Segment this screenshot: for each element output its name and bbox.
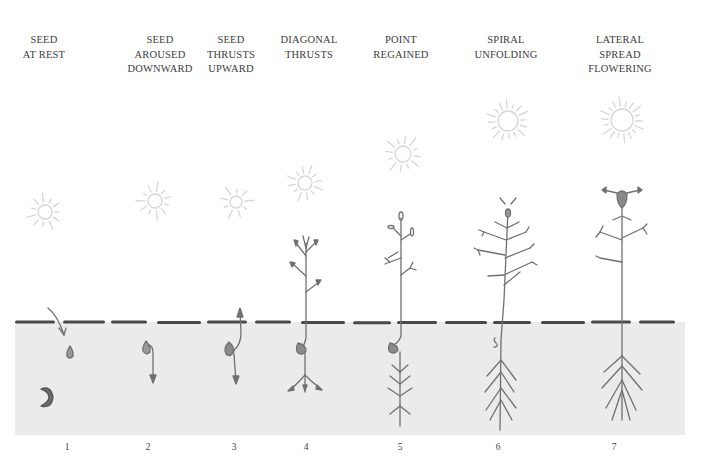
soil-area xyxy=(15,322,685,435)
stage-number-5: 5 xyxy=(390,442,410,452)
sun-icons xyxy=(27,97,643,229)
stage-number-7: 7 xyxy=(604,442,624,452)
sun-icon xyxy=(386,137,421,172)
sun-icon xyxy=(487,99,528,139)
stage-number-2: 2 xyxy=(138,442,158,452)
sun-icon xyxy=(27,193,59,229)
sun-icon xyxy=(287,165,322,200)
sun-icon xyxy=(136,182,171,220)
stage-number-6: 6 xyxy=(488,442,508,452)
stage-number-3: 3 xyxy=(224,442,244,452)
sun-icon xyxy=(601,97,643,143)
stage-number-1: 1 xyxy=(57,442,77,452)
growth-stages-illustration xyxy=(0,0,716,467)
stage-number-4: 4 xyxy=(296,442,316,452)
sun-icon xyxy=(221,187,254,218)
